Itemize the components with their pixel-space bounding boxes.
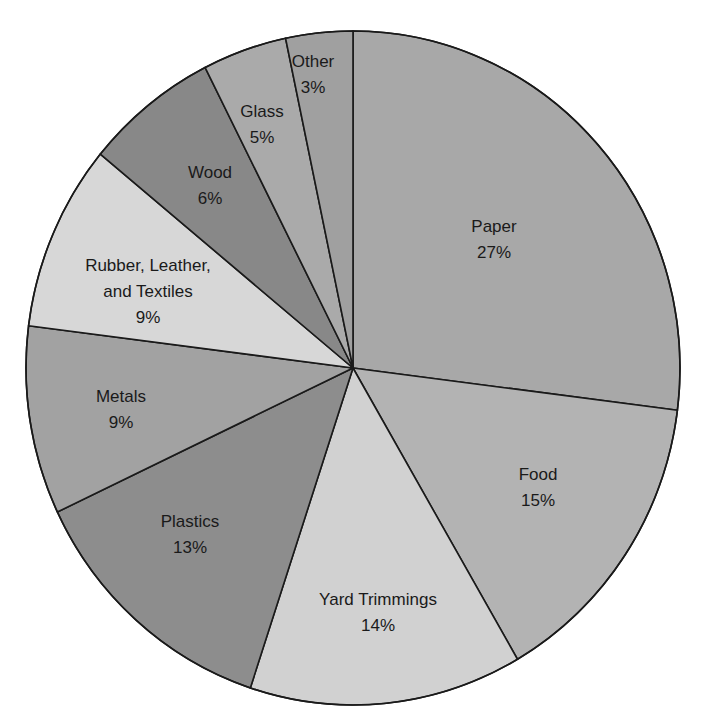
slice-percent: 9% (96, 410, 146, 436)
slice-name-line-1: Rubber, Leather, (85, 253, 211, 279)
slice-name: Plastics (161, 509, 220, 535)
slice-label-food: Food 15% (519, 462, 558, 514)
slice-name: Paper (471, 214, 516, 240)
slice-name-line-2: and Textiles (85, 279, 211, 305)
slice-label-plastics: Plastics 13% (161, 509, 220, 561)
slice-label-glass: Glass 5% (240, 99, 283, 151)
slice-name: Glass (240, 99, 283, 125)
slice-name: Wood (188, 160, 232, 186)
slice-name: Food (519, 462, 558, 488)
slice-percent: 9% (85, 305, 211, 331)
slice-label-metals: Metals 9% (96, 384, 146, 436)
slice-percent: 14% (319, 613, 437, 639)
slice-percent: 6% (188, 186, 232, 212)
slice-label-wood: Wood 6% (188, 160, 232, 212)
slice-name: Metals (96, 384, 146, 410)
slice-percent: 5% (240, 125, 283, 151)
slice-percent: 13% (161, 535, 220, 561)
slice-label-paper: Paper 27% (471, 214, 516, 266)
slice-percent: 3% (292, 75, 335, 101)
slice-label-yard-trimmings: Yard Trimmings 14% (319, 587, 437, 639)
slice-label-rubber-leather-textiles: Rubber, Leather, and Textiles 9% (85, 253, 211, 331)
slice-name: Other (292, 49, 335, 75)
slice-percent: 27% (471, 240, 516, 266)
slice-name: Yard Trimmings (319, 587, 437, 613)
slice-percent: 15% (519, 488, 558, 514)
slice-label-other: Other 3% (292, 49, 335, 101)
